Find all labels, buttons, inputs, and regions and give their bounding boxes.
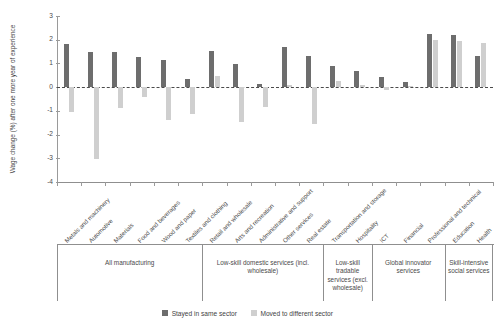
bar-stayed-in-same-sector <box>427 34 432 87</box>
x-category-label: Materials <box>112 221 135 244</box>
bar-stayed-in-same-sector <box>257 84 262 88</box>
bar-moved-to-different-sector <box>287 85 292 87</box>
x-category-label: Retail and wholesale <box>208 199 253 244</box>
bar-stayed-in-same-sector <box>88 52 93 87</box>
bar-stayed-in-same-sector <box>112 52 117 87</box>
x-category-label: Metals and machinery <box>63 196 111 244</box>
sector-group-box: Global innovator services <box>372 245 445 301</box>
bar-group <box>396 16 420 182</box>
group-divider <box>202 245 203 301</box>
bar-group <box>469 16 493 182</box>
bars-layer <box>57 16 493 182</box>
bar-group <box>202 16 226 182</box>
legend-item: Stayed in same sector <box>162 310 237 317</box>
sector-group-label: Low-skill domestic services (incl. whole… <box>202 259 323 276</box>
y-tick-label: -4 <box>47 178 53 185</box>
sector-group-label: Low-skill tradable services (excl. whole… <box>323 259 371 293</box>
x-category-label: Health <box>475 226 493 244</box>
bar-group <box>299 16 323 182</box>
x-tick <box>154 182 155 186</box>
bar-group <box>275 16 299 182</box>
bar-moved-to-different-sector <box>166 87 171 120</box>
x-category-label: ICT <box>378 232 390 244</box>
legend-item: Moved to different sector <box>251 310 333 317</box>
legend-swatch-move <box>251 310 257 316</box>
bar-stayed-in-same-sector <box>209 51 214 87</box>
x-tick <box>251 182 252 186</box>
bar-stayed-in-same-sector <box>185 79 190 87</box>
y-axis-label-container: Wage change (%) after one more year of e… <box>2 16 24 181</box>
bar-moved-to-different-sector <box>215 76 220 87</box>
x-tick <box>202 182 203 186</box>
x-tick <box>105 182 106 186</box>
bar-moved-to-different-sector <box>433 40 438 87</box>
bar-group <box>154 16 178 182</box>
x-category-label: Hospitality <box>354 219 379 244</box>
x-tick <box>372 182 373 186</box>
group-divider <box>492 245 493 301</box>
x-tick <box>469 182 470 186</box>
x-tick <box>227 182 228 186</box>
bar-group <box>420 16 444 182</box>
bar-moved-to-different-sector <box>336 81 341 87</box>
bar-group <box>227 16 251 182</box>
x-category-label: Financial <box>402 222 424 244</box>
x-tick <box>445 182 446 186</box>
group-divider <box>445 245 446 301</box>
bar-group <box>57 16 81 182</box>
x-axis-category-labels: Metals and machineryAutomotiveMaterialsF… <box>57 186 494 244</box>
bar-stayed-in-same-sector <box>282 47 287 87</box>
x-tick <box>348 182 349 186</box>
sector-group-label: Skill-intensive social services <box>445 259 493 276</box>
bar-moved-to-different-sector <box>239 87 244 121</box>
x-tick <box>275 182 276 186</box>
x-tick <box>57 182 58 186</box>
wage-change-bar-chart: Wage change (%) after one more year of e… <box>0 0 495 330</box>
group-divider <box>372 245 373 301</box>
x-tick <box>130 182 131 186</box>
bar-group <box>105 16 129 182</box>
bar-stayed-in-same-sector <box>379 77 384 87</box>
sector-group-box: Low-skill tradable services (excl. whole… <box>323 245 371 301</box>
y-tick-label: -3 <box>47 154 53 161</box>
x-tick <box>81 182 82 186</box>
x-category-label: Education <box>451 220 475 244</box>
sector-group-box: All manufacturing <box>57 245 202 301</box>
bar-stayed-in-same-sector <box>451 35 456 87</box>
x-category-label: Real estate <box>305 217 332 244</box>
bar-moved-to-different-sector <box>94 87 99 159</box>
bar-group <box>372 16 396 182</box>
bar-stayed-in-same-sector <box>403 82 408 87</box>
group-divider <box>323 245 324 301</box>
x-tick <box>178 182 179 186</box>
bar-moved-to-different-sector <box>263 87 268 106</box>
sector-group-box: Low-skill domestic services (incl. whole… <box>202 245 323 301</box>
sector-group-label: Global innovator services <box>372 259 445 276</box>
bar-group <box>445 16 469 182</box>
legend-label: Stayed in same sector <box>172 310 237 317</box>
bar-stayed-in-same-sector <box>64 44 69 87</box>
bar-moved-to-different-sector <box>457 41 462 87</box>
bar-moved-to-different-sector <box>69 87 74 112</box>
bar-moved-to-different-sector <box>408 86 413 87</box>
bar-group <box>251 16 275 182</box>
x-tick <box>396 182 397 186</box>
bar-group <box>348 16 372 182</box>
x-tick <box>420 182 421 186</box>
bar-group <box>323 16 347 182</box>
sector-group-label: All manufacturing <box>103 259 156 267</box>
x-category-label: Automotive <box>87 217 114 244</box>
group-divider <box>57 245 58 301</box>
x-tick <box>493 182 494 186</box>
bar-moved-to-different-sector <box>312 87 317 124</box>
legend-label: Moved to different sector <box>260 310 332 317</box>
bar-moved-to-different-sector <box>360 85 365 87</box>
bar-group <box>178 16 202 182</box>
bar-moved-to-different-sector <box>118 87 123 108</box>
bar-group <box>130 16 154 182</box>
y-tick-label: 0 <box>49 83 53 90</box>
x-tick <box>299 182 300 186</box>
y-tick-label: -2 <box>47 130 53 137</box>
bar-stayed-in-same-sector <box>233 64 238 87</box>
y-tick-label: 2 <box>49 35 53 42</box>
